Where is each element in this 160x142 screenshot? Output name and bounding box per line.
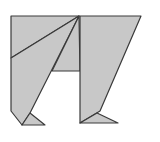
tangram-diagram <box>0 0 160 142</box>
right-large-piece <box>80 16 141 123</box>
